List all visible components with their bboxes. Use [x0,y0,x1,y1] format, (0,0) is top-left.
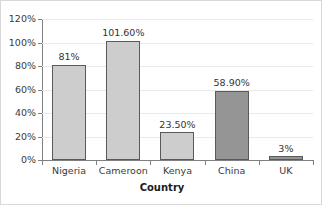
bar-slot: 3% [259,19,313,160]
bar[interactable] [160,132,194,160]
y-axis-tick-label: 120% [9,14,36,24]
y-axis-tick-label: 40% [15,108,36,118]
bar-value-label: 23.50% [159,120,195,130]
bar-value-label: 101.60% [102,28,144,38]
bar[interactable] [269,156,303,160]
y-axis-tick-label: 100% [9,38,36,48]
bar[interactable] [52,65,86,160]
y-axis-tick-label: 0% [21,155,36,165]
x-axis-tick-mark [96,160,97,165]
x-axis-tick-mark [150,160,151,165]
x-axis-tick-mark [259,160,260,165]
bar-chart: 0%20%40%60%80%100%120% 81%101.60%23.50%5… [0,0,322,205]
bar-slot: 101.60% [96,19,150,160]
bar-slot: 23.50% [150,19,204,160]
y-axis-tick-label: 60% [15,85,36,95]
bar-slot: 81% [42,19,96,160]
x-axis-line [42,160,314,161]
x-axis-tick-label: Kenya [163,166,192,176]
x-axis-tick-label: Nigeria [52,166,86,176]
bar-value-label: 81% [59,52,80,62]
bar[interactable] [106,41,140,160]
y-axis-tick-label: 80% [15,61,36,71]
x-axis-tick-mark [313,160,314,165]
x-axis-title: Country [1,183,322,193]
x-axis-tick-label: Cameroon [99,166,148,176]
bar[interactable] [215,91,249,160]
x-axis-tick-label: UK [279,166,292,176]
x-axis-tick-mark [42,160,43,165]
bar-value-label: 58.90% [214,78,250,88]
bars-layer: 81%101.60%23.50%58.90%3% [42,19,313,160]
y-axis-tick-label: 20% [15,132,36,142]
x-axis-tick-label: China [218,166,245,176]
x-axis-tick-mark [205,160,206,165]
bar-value-label: 3% [278,144,293,154]
bar-slot: 58.90% [205,19,259,160]
